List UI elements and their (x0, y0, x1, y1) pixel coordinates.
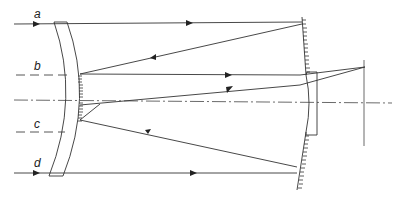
arrow-icon (33, 170, 40, 176)
optical-axis (14, 100, 392, 103)
arrow-icon (145, 129, 151, 134)
ray-label-d: d (34, 156, 41, 170)
ray-label-c: c (34, 117, 40, 131)
ray-a (14, 20, 302, 74)
ray-label-a: a (34, 7, 41, 21)
arrow-icon (226, 86, 233, 93)
primary-mirror (297, 17, 310, 190)
arrow-icon (190, 170, 197, 176)
arrow-icon (33, 21, 40, 27)
corrector-meniscus-lens (49, 22, 83, 176)
optical-ray-diagram: a b c d (0, 0, 402, 199)
ray-c (16, 67, 365, 132)
ray-d (14, 120, 297, 176)
arrow-icon (225, 72, 232, 78)
ray-b (16, 67, 365, 78)
ray-label-b: b (34, 59, 41, 73)
arrow-icon (150, 54, 156, 60)
arrow-icon (186, 20, 193, 26)
